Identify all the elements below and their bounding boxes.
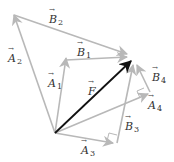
label-a4: A4 <box>148 100 162 113</box>
label-b2: B2 <box>49 14 63 27</box>
label-a3: A3 <box>81 145 95 158</box>
label-f: F <box>88 86 96 97</box>
vector-diagram: B2 A2 B1 A1 F B4 A4 B3 A3 <box>0 0 174 162</box>
label-b3: B3 <box>125 121 139 134</box>
vector-a1 <box>55 58 66 133</box>
vector-diagram-svg <box>0 0 174 162</box>
label-b1: B1 <box>77 47 91 60</box>
right-angle-marker-3 <box>107 133 117 141</box>
vector-b2 <box>14 15 127 54</box>
vector-b1 <box>66 57 127 60</box>
label-b4: B4 <box>152 72 166 85</box>
label-a1: A1 <box>48 78 62 91</box>
label-a2: A2 <box>8 53 22 66</box>
